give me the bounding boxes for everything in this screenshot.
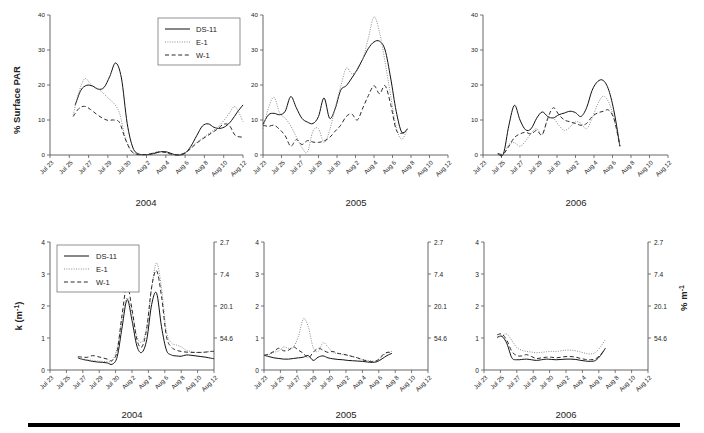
y-tick-label: 0 [41, 367, 45, 374]
panel-bottom-middle-2005: 01234 54.620.17.42.7 Jul 23Jul 25Jul 27J… [214, 228, 454, 426]
year-label-2005: 2005 [345, 197, 366, 208]
x-tick-label: Aug 8 [619, 158, 636, 175]
chart-top-2004: % Surface PAR 010203040 Jul 23Jul 25Jul … [0, 0, 250, 215]
panel-bottom-right-2006: 01234 54.620.17.42.7 Jul 23Jul 25Jul 27J… [434, 228, 704, 426]
y-tick-label: 40 [38, 11, 45, 18]
x-tick-label: Aug 2 [334, 373, 351, 390]
x-tick-label: Jul 30 [115, 158, 132, 175]
y-tick-label: 10 [38, 116, 45, 123]
x-tick-label: Jul 27 [505, 373, 522, 390]
right-axis-label-sup: -1 [678, 285, 685, 291]
x-tick-label: Jul 27 [288, 158, 305, 175]
year-label-2006: 2006 [555, 409, 576, 420]
series-line-ds11 [498, 80, 620, 156]
x-tick-label: Aug 4 [351, 373, 368, 390]
series-line-e1 [263, 17, 407, 153]
y2-tick-label: 20.1 [654, 303, 667, 310]
year-label-2005: 2005 [335, 409, 356, 420]
x-ticks: Jul 23Jul 25Jul 27Jul 29Jul 30Aug 2Aug 4… [471, 155, 673, 178]
y-tick-label: 1 [41, 335, 45, 342]
right-axis-title: % m-1 [678, 285, 689, 311]
y-ticks: 01234 [475, 239, 484, 374]
y2-tick-label: 7.4 [654, 271, 663, 278]
x-tick-label: Jul 25 [57, 158, 74, 175]
y-tick-label: 20 [38, 81, 45, 88]
x-tick-label: Aug 4 [137, 373, 154, 390]
year-label-2004: 2004 [121, 409, 142, 420]
legend-label-w1: W-1 [196, 51, 210, 60]
legend-label-e1: E-1 [96, 265, 108, 274]
y-ticks: 010203040 [471, 11, 483, 158]
series-line-ds11 [78, 292, 214, 364]
y-axis-label-base: k (m [13, 311, 24, 331]
y2-tick-label: 54.6 [654, 335, 667, 342]
y-axis-label: % Surface PAR [11, 66, 22, 134]
y-tick-label: 30 [471, 46, 478, 53]
panel-top-middle-2005: 010203040 Jul 23Jul 25Jul 27Jul 29Jul 30… [214, 0, 454, 215]
x-tick-label: Jul 30 [104, 373, 121, 390]
y-tick-label: 2 [475, 303, 479, 310]
panel-bottom-left-2004: k (m-1) 01234 54.620.17.42.7 Jul 23Jul 2… [0, 228, 250, 426]
legend-bottom-2004: DS-11 E-1 W-1 [57, 245, 139, 292]
x-tick-label: Aug 6 [173, 158, 190, 175]
x-tick-label: Jul 30 [538, 373, 555, 390]
y-tick-label: 4 [255, 239, 259, 246]
x-tick-label: Aug 2 [135, 158, 152, 175]
x-tick-label: Jul 29 [521, 373, 538, 390]
x-tick-label: Aug 4 [582, 158, 599, 175]
x-tick-label: Aug 4 [362, 158, 379, 175]
x-tick-label: Jul 30 [325, 158, 342, 175]
x-tick-label: Jul 27 [77, 158, 94, 175]
x-tick-label: Aug 10 [183, 373, 202, 392]
x-tick-label: Aug 10 [617, 373, 636, 392]
y-tick-label: 1 [475, 335, 479, 342]
x-tick-label: Jul 29 [87, 373, 104, 390]
x-tick-label: Jul 29 [527, 158, 544, 175]
y-tick-label: 30 [38, 46, 45, 53]
x-tick-label: Aug 4 [154, 158, 171, 175]
legend-label-e1: E-1 [196, 38, 208, 47]
x-tick-label: Aug 10 [397, 373, 416, 392]
x-ticks: Jul 23Jul 25Jul 27Jul 29Jul 30Aug 2Aug 4… [472, 370, 653, 393]
y-tick-label: 40 [251, 11, 258, 18]
y-tick-label: 0 [475, 151, 479, 158]
y-tick-label: 3 [41, 271, 45, 278]
x-tick-label: Jul 27 [508, 158, 525, 175]
x-tick-label: Jul 25 [54, 373, 71, 390]
x-tick-label: Jul 23 [38, 373, 55, 390]
x-tick-label: Jul 29 [96, 158, 113, 175]
chart-bottom-2004: k (m-1) 01234 54.620.17.42.7 Jul 23Jul 2… [0, 228, 250, 426]
y2-ticks: 54.620.17.42.7 [648, 239, 667, 342]
panel-top-right-2006: 010203040 Jul 23Jul 25Jul 27Jul 29Jul 30… [434, 0, 704, 215]
y-ticks: 01234 [41, 239, 50, 374]
year-label-2006: 2006 [565, 197, 586, 208]
y-tick-label: 10 [251, 116, 258, 123]
x-tick-label: Jul 23 [472, 373, 489, 390]
y-tick-label: 40 [471, 11, 478, 18]
y-tick-label: 20 [251, 81, 258, 88]
y-tick-label: 3 [475, 271, 479, 278]
series-group [263, 17, 407, 153]
y-tick-label: 1 [255, 335, 259, 342]
y-tick-label: 30 [251, 46, 258, 53]
x-ticks: Jul 23Jul 25Jul 27Jul 29Jul 30Aug 2Aug 4… [251, 155, 453, 178]
series-line-e1 [497, 334, 605, 354]
figure-canvas: % Surface PAR 010203040 Jul 23Jul 25Jul … [0, 0, 704, 433]
legend-label-w1: W-1 [96, 278, 110, 287]
x-tick-label: Jul 30 [545, 158, 562, 175]
axis-lines [263, 15, 448, 155]
x-tick-label: Jul 23 [251, 158, 268, 175]
x-tick-label: Jul 29 [301, 373, 318, 390]
x-tick-label: Aug 6 [153, 373, 170, 390]
x-tick-label: Aug 8 [193, 158, 210, 175]
series-group [497, 334, 605, 362]
y-ticks: 010203040 [38, 11, 50, 158]
axis-lines [484, 242, 648, 370]
x-tick-label: Aug 12 [654, 158, 673, 177]
series-line-e1 [264, 318, 392, 361]
x-tick-label: Jul 29 [307, 158, 324, 175]
x-tick-label: Jul 23 [38, 158, 55, 175]
chart-top-2006: 010203040 Jul 23Jul 25Jul 27Jul 29Jul 30… [434, 0, 704, 215]
x-tick-label: Aug 2 [344, 158, 361, 175]
panel-top-left-2004: % Surface PAR 010203040 Jul 23Jul 25Jul … [0, 0, 250, 215]
